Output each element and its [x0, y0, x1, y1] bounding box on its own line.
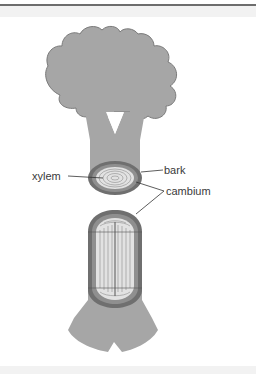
longitudinal-section: [88, 210, 142, 308]
tree-diagram: bark xylem cambium: [0, 0, 256, 374]
label-bark: bark: [164, 164, 186, 176]
tree-crown: [46, 26, 177, 119]
label-xylem: xylem: [32, 170, 61, 182]
label-cambium: cambium: [166, 185, 211, 197]
